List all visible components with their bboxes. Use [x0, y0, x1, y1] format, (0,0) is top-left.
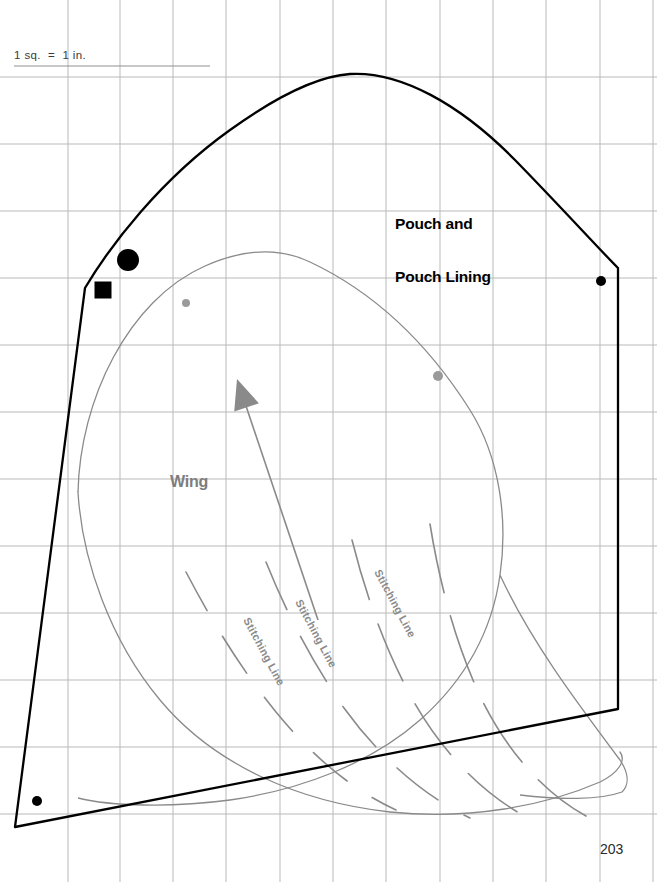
- grain-arrow-head: [234, 379, 259, 412]
- square-marker: [95, 282, 112, 299]
- wing-dot-upper-left: [182, 299, 190, 307]
- pattern-title-line-1: Pouch and: [395, 215, 491, 233]
- pattern-sheet: Stitching LineStitching LineStitching Li…: [0, 0, 657, 882]
- pattern-page: Stitching LineStitching LineStitching Li…: [0, 0, 657, 882]
- wing-piece: [78, 252, 627, 814]
- grid-horizontal-lines: [0, 77, 657, 814]
- grid-vertical-lines: [68, 0, 653, 882]
- large-dot-marker: [117, 249, 139, 271]
- pouch-outline: [15, 74, 618, 827]
- page-number: 203: [600, 841, 623, 857]
- stitching-curve-1: [186, 572, 396, 810]
- grain-line-arrow: [234, 379, 318, 620]
- pattern-title-line-2: Pouch Lining: [395, 268, 491, 286]
- pouch-piece: [15, 74, 618, 827]
- stitching-line-label: Stitching Line: [293, 597, 339, 669]
- grid-background: [0, 0, 657, 882]
- stitching-line-labels: Stitching LineStitching LineStitching Li…: [241, 567, 418, 687]
- wing-outline: [78, 252, 627, 805]
- page-title: Pouch and Pouch Lining: [395, 179, 491, 322]
- stitching-curve-4: [430, 524, 586, 816]
- notch-dot-right: [596, 276, 606, 286]
- marker-symbols: [32, 249, 606, 806]
- wing-dot-right: [433, 371, 443, 381]
- scale-legend-label: 1 sq. = 1 in.: [14, 49, 86, 62]
- wing-piece-label: Wing: [170, 473, 208, 491]
- wing-outline-tail: [78, 492, 622, 814]
- notch-dot-bottom-left: [32, 796, 42, 806]
